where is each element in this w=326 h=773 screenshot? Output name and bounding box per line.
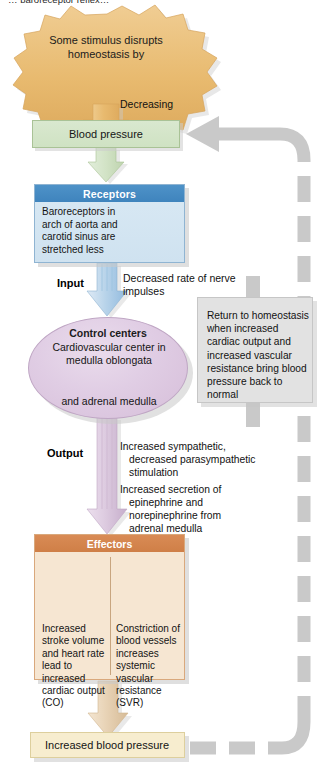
return-to-homeostasis-box: Return to homeostasis when increased car…	[197, 297, 313, 403]
output-desc1-line3: stimulation	[120, 466, 270, 479]
control-centers-subtitle: Cardiovascular center in medulla oblonga…	[39, 341, 179, 367]
output-label: Output	[47, 447, 83, 459]
return-to-homeostasis-text: Return to homeostasis when increased car…	[207, 309, 309, 401]
control-centers-title: Control centers	[29, 327, 187, 339]
output-description-1: Increased sympathetic, decreased parasym…	[120, 440, 270, 479]
blood-pressure-box: Blood pressure	[32, 120, 180, 148]
homeostasis-flow-diagram: … baroreceptor reflex…	[0, 0, 326, 773]
effectors-right-text: Constriction of blood vessels increases …	[116, 623, 182, 710]
input-description: Decreased rate of nerve impulses	[123, 272, 243, 298]
input-label: Input	[57, 277, 84, 289]
effectors-header: Effectors	[35, 535, 184, 552]
receptors-body-text: Baroreceptors in arch of aorta and carot…	[42, 206, 137, 256]
control-centers-bottom-text: and adrenal medulla	[35, 395, 183, 407]
effectors-left-text: Increased stroke volume and heart rate l…	[42, 623, 108, 710]
output-desc1-line1: Increased sympathetic,	[120, 441, 226, 452]
receptors-panel: Receptors Baroreceptors in arch of aorta…	[34, 184, 185, 263]
control-centers-ellipse: Control centers Cardiovascular center in…	[28, 317, 188, 419]
output-desc2-line2: epinephrine and	[120, 496, 270, 509]
bp-to-receptors-arrow	[88, 147, 128, 184]
output-desc2-line3: norepinephrine from	[120, 509, 270, 522]
effectors-panel: Effectors Increased stroke volume and he…	[34, 534, 185, 680]
output-desc1-line2: decreased parasympathetic	[120, 453, 270, 466]
receptors-header: Receptors	[35, 185, 184, 202]
increased-blood-pressure-box: Increased blood pressure	[30, 732, 185, 758]
stimulus-text: Some stimulus disrupts homeostasis by	[36, 33, 176, 61]
feedback-arrow	[186, 116, 304, 748]
effectors-divider	[110, 557, 111, 675]
decreasing-label: Decreasing	[120, 98, 173, 110]
output-description-2: Increased secretion of epinephrine and n…	[120, 483, 270, 535]
output-desc2-line1: Increased secretion of	[120, 484, 221, 495]
